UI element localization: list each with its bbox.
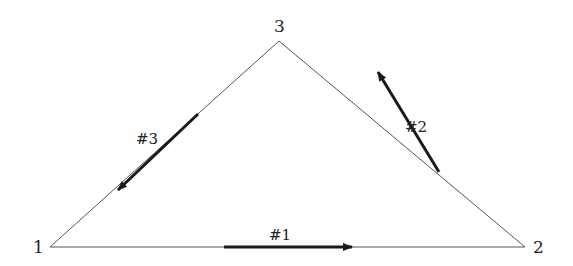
vertex-label-2: 2	[533, 237, 544, 257]
triangle-diagram: 1 2 3 #1 #2 #3	[0, 0, 573, 266]
vertex-label-3: 3	[274, 16, 285, 36]
edge-label-2: #2	[405, 118, 427, 136]
arrow-3-icon	[118, 114, 198, 190]
vertex-label-1: 1	[33, 237, 44, 257]
edge-label-3: #3	[136, 130, 158, 148]
edge-2-3	[279, 41, 525, 247]
edge-label-1: #1	[269, 226, 291, 244]
